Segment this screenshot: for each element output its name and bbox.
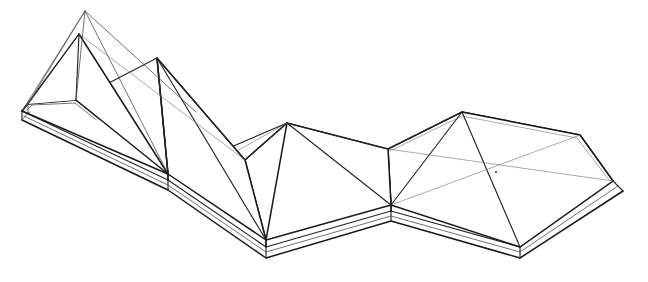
axonometric-roof-drawing: Axonometric line drawing of a multi-bay … bbox=[0, 0, 648, 282]
hip-crossing-node bbox=[495, 171, 497, 173]
drawing-canvas: Axonometric line drawing of a multi-bay … bbox=[0, 0, 648, 282]
